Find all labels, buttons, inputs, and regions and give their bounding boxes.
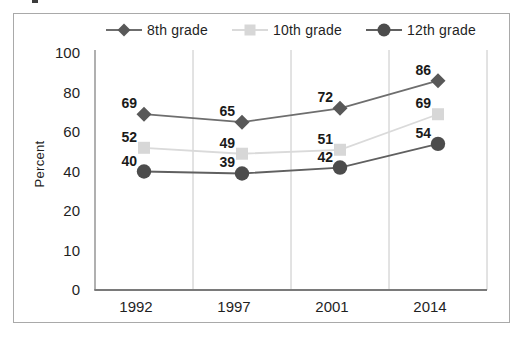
data-point-label: 51 (317, 131, 333, 147)
data-point-marker-square (432, 108, 444, 120)
data-point-marker-square (236, 148, 248, 160)
x-axis-tick-label: 1992 (119, 298, 152, 315)
y-axis-tick-label: 80 (63, 84, 80, 101)
data-point-label: 40 (121, 153, 137, 169)
data-point-marker-diamond (431, 73, 446, 88)
data-point-marker-diamond (137, 107, 152, 122)
data-point-marker-square (138, 142, 150, 154)
y-axis-tick-label: 0 (72, 281, 80, 298)
y-axis-tick-label: 100 (55, 44, 80, 61)
data-point-label: 42 (317, 149, 333, 165)
data-point-marker-circle (333, 160, 347, 174)
data-point-label: 54 (415, 125, 431, 141)
line-chart-plot: 1008060402010019921997200120146965728652… (0, 0, 526, 342)
data-point-label: 86 (415, 62, 431, 78)
data-point-label: 72 (317, 89, 333, 105)
data-point-marker-diamond (235, 115, 250, 130)
y-axis-tick-label: 40 (63, 163, 80, 180)
x-axis-tick-label: 2014 (413, 298, 446, 315)
data-point-marker-circle (431, 137, 445, 151)
data-point-label: 69 (121, 95, 137, 111)
y-axis-tick-label: 10 (63, 242, 80, 259)
data-point-label: 69 (415, 95, 431, 111)
x-axis-tick-label: 2001 (315, 298, 348, 315)
data-point-label: 65 (219, 103, 235, 119)
x-axis-tick-label: 1997 (217, 298, 250, 315)
data-point-marker-circle (235, 166, 249, 180)
y-axis-tick-label: 20 (63, 202, 80, 219)
data-point-label: 52 (121, 129, 137, 145)
data-point-label: 49 (219, 135, 235, 151)
data-point-marker-square (334, 144, 346, 156)
data-point-marker-diamond (333, 101, 348, 116)
y-axis-tick-label: 60 (63, 123, 80, 140)
data-point-label: 39 (219, 154, 235, 170)
data-point-marker-circle (137, 164, 151, 178)
chart-figure: 8th grade10th grade12th grade Percent 10… (0, 0, 526, 342)
